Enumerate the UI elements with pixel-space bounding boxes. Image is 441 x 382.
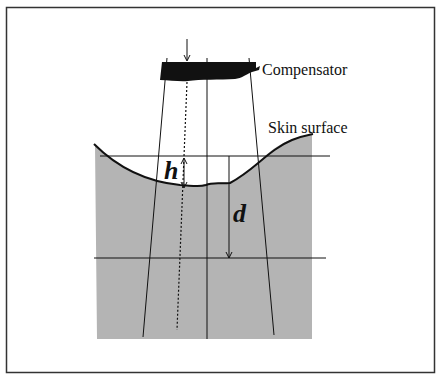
compensator-diagram: Compensator Skin surface h d bbox=[0, 0, 441, 382]
tissue-region bbox=[95, 134, 313, 339]
compensator-label: Compensator bbox=[262, 61, 348, 79]
compensator-block bbox=[160, 62, 260, 81]
skin-surface-label: Skin surface bbox=[268, 119, 348, 136]
d-label: d bbox=[233, 199, 247, 228]
h-label: h bbox=[164, 156, 178, 185]
